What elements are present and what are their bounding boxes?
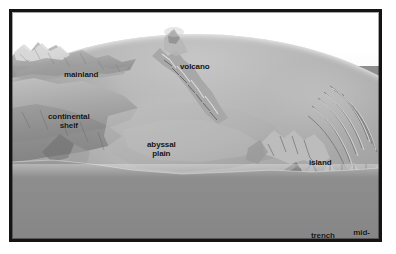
terrain-layer — [12, 12, 379, 239]
ocean-floor-diagram: mainland volcano continental shelf abyss… — [12, 12, 379, 239]
mainland-terrain — [12, 42, 136, 80]
abyssal-plain-terrain — [104, 102, 288, 172]
block-cut-face — [12, 160, 379, 239]
figure-frame: mainland volcano continental shelf abyss… — [9, 9, 382, 242]
terrain-svg — [12, 12, 379, 239]
